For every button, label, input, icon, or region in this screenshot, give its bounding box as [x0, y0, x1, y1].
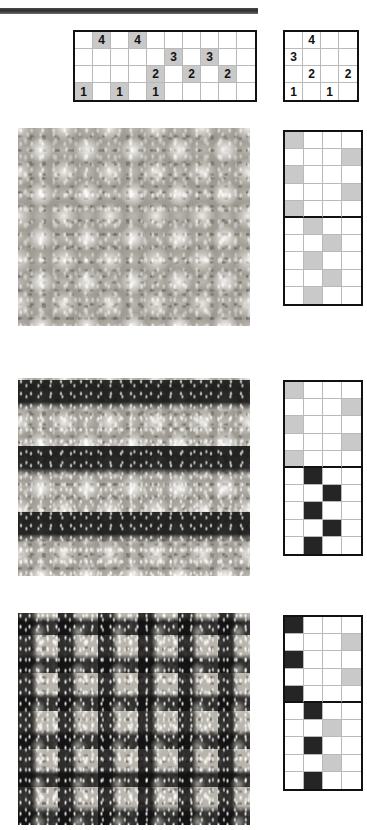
chart-cell [323, 634, 342, 651]
chart-cell [323, 720, 342, 737]
chart-cell: 3 [285, 49, 303, 66]
chart-cell [285, 201, 304, 218]
chart-cell: 3 [201, 49, 219, 66]
chart-cell: 1 [147, 83, 165, 100]
chart-cell [304, 520, 323, 537]
chart-cell [219, 49, 237, 66]
chart-cell [237, 32, 255, 49]
swatch-photo-a [18, 128, 250, 326]
chart-cell [285, 651, 304, 668]
chart-cell [342, 502, 361, 519]
chart-cell [323, 270, 342, 287]
chart-cell [285, 32, 303, 49]
chart-cell [304, 416, 323, 433]
chart-cell [304, 737, 323, 754]
chart-cell [323, 252, 342, 269]
chart-cell [304, 132, 323, 149]
chart-cell [285, 502, 304, 519]
chart-cell [285, 537, 304, 554]
chart-cell [323, 468, 342, 485]
chart-cell [342, 132, 361, 149]
stitch-chart-main: 4433222111 [73, 30, 257, 102]
chart-cell [323, 703, 342, 720]
chart-cell [342, 149, 361, 166]
chart-cell [285, 755, 304, 772]
chart-cell: 2 [147, 66, 165, 83]
chart-cell [342, 382, 361, 399]
chart-cell: 2 [303, 66, 321, 83]
chart-cell [323, 669, 342, 686]
chart-cell [304, 166, 323, 183]
chart-cell [93, 49, 111, 66]
chart-cell [323, 132, 342, 149]
chart-cell [129, 66, 147, 83]
chart-cell [342, 772, 361, 789]
chart-cell [323, 287, 342, 304]
chart-cell [323, 737, 342, 754]
chart-cell [342, 485, 361, 502]
chart-cell [321, 49, 339, 66]
chart-cell [285, 399, 304, 416]
chart-cell [285, 270, 304, 287]
chart-cell: 3 [165, 49, 183, 66]
chart-cell [75, 49, 93, 66]
chart-cell [323, 184, 342, 201]
chart-cell [342, 617, 361, 634]
chart-cell [304, 755, 323, 772]
chart-cell [285, 520, 304, 537]
chart-cell: 2 [219, 66, 237, 83]
chart-cell [304, 485, 323, 502]
chart-cell [304, 399, 323, 416]
chart-cell [321, 66, 339, 83]
chart-cell [323, 651, 342, 668]
chart-cell [285, 485, 304, 502]
chart-cell [304, 252, 323, 269]
chart-cell [93, 66, 111, 83]
chart-cell [304, 468, 323, 485]
chart-cell [342, 686, 361, 703]
chart-cell [304, 201, 323, 218]
chart-cell [304, 634, 323, 651]
swatch-photo-c [18, 613, 250, 825]
chart-cell [285, 686, 304, 703]
chart-cell [237, 49, 255, 66]
chart-cell [342, 737, 361, 754]
chart-cell [75, 66, 93, 83]
chart-cell [342, 252, 361, 269]
chart-cell [201, 66, 219, 83]
chart-cell [129, 83, 147, 100]
chart-cell: 1 [321, 83, 339, 100]
chart-cell [165, 66, 183, 83]
chart-cell [304, 669, 323, 686]
swatch-photo-b [18, 378, 250, 576]
chart-cell [342, 235, 361, 252]
chart-cell [303, 83, 321, 100]
chart-cell [342, 703, 361, 720]
chart-cell [183, 49, 201, 66]
chart-cell [285, 737, 304, 754]
chart-cell [342, 451, 361, 468]
chart-cell [342, 399, 361, 416]
chart-cell [342, 184, 361, 201]
stitch-chart-repeat: 432211 [283, 30, 359, 102]
chart-cell [323, 218, 342, 235]
top-rule [0, 8, 258, 14]
chart-cell [304, 287, 323, 304]
chart-cell [323, 485, 342, 502]
chart-cell [201, 32, 219, 49]
chart-cell [304, 270, 323, 287]
chart-cell [285, 382, 304, 399]
chart-cell [323, 399, 342, 416]
chart-cell [285, 669, 304, 686]
chart-cell [304, 686, 323, 703]
chart-cell [285, 252, 304, 269]
chart-cell [285, 720, 304, 737]
chart-cell [304, 617, 323, 634]
chart-cell: 1 [285, 83, 303, 100]
chart-cell [304, 149, 323, 166]
chart-cell [111, 49, 129, 66]
chart-cell [323, 520, 342, 537]
chart-cell [304, 703, 323, 720]
chart-cell [342, 537, 361, 554]
chart-cell [201, 83, 219, 100]
